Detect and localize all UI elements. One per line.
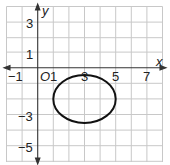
x-tick-1: 1 (50, 70, 57, 83)
y-axis-label: y (42, 4, 49, 17)
y-tick-neg3: −3 (18, 110, 33, 123)
x-tick-5: 5 (112, 70, 119, 83)
y-axis-arrow-up-icon (36, 4, 40, 10)
y-tick-1: 1 (26, 48, 33, 61)
x-axis-label: x (156, 55, 163, 68)
y-axis-arrow-down-icon (36, 158, 40, 164)
y-axis (36, 4, 40, 164)
y-tick-3: 3 (26, 17, 33, 30)
y-tick-neg5: −5 (18, 141, 33, 154)
origin-label: O (40, 70, 50, 83)
x-tick-3: 3 (81, 70, 88, 83)
x-tick-7: 7 (143, 70, 150, 83)
x-tick-neg1: −1 (8, 70, 23, 83)
